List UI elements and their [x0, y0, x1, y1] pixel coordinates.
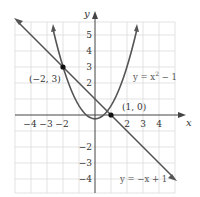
x-tick: −4 [23, 119, 37, 129]
y-tick: 3 [86, 62, 92, 72]
x-axis-label: x [186, 117, 192, 128]
y-axis-arrow-icon [92, 11, 98, 19]
line-equation-label: y = −x + 1 [119, 174, 167, 184]
x-tick: −2 [55, 119, 68, 129]
y-tick: −2 [79, 142, 92, 152]
line-arrow-lower-icon [168, 174, 177, 181]
point-1-0 [108, 112, 113, 117]
y-tick: 2 [86, 78, 92, 88]
graph-figure: x y −4 −3 −2 2 3 4 5 4 3 2 −2 −3 −4 (−2,… [0, 0, 200, 197]
parabola-arrow-left-icon [51, 24, 56, 32]
x-tick: 3 [140, 119, 146, 129]
point-label-1-0: (1, 0) [122, 102, 146, 112]
parabola-arrow-right-icon [134, 24, 139, 32]
y-tick: 4 [86, 46, 92, 56]
point-label-neg2-3: (−2, 3) [29, 74, 61, 84]
y-tick: −4 [79, 174, 93, 184]
y-tick: 5 [86, 30, 92, 40]
x-tick: 4 [156, 119, 162, 129]
y-axis-label: y [83, 8, 90, 19]
eq-suffix: − 1 [159, 72, 177, 82]
eq-prefix: y = x [132, 72, 155, 82]
x-tick: −3 [39, 119, 53, 129]
y-tick: −3 [79, 158, 93, 168]
point-neg2-3 [60, 64, 65, 69]
x-ticks: −4 −3 −2 2 3 4 [23, 119, 162, 129]
y-ticks: 5 4 3 2 −2 −3 −4 [79, 30, 93, 184]
x-axis-arrow-icon [178, 112, 186, 118]
x-tick: 2 [124, 119, 130, 129]
parabola-equation-label: y = x2 − 1 [132, 70, 177, 82]
